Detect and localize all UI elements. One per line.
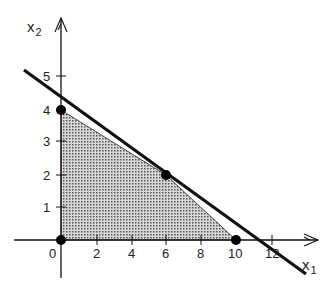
feasible-region — [61, 110, 236, 240]
x-tick-label: 8 — [197, 246, 204, 261]
lp-diagram: 0 2 4 6 8 10 12 x1 1 2 3 4 5 x2 — [0, 0, 331, 289]
y-tick-label: 1 — [43, 200, 50, 215]
x-tick-label: 6 — [162, 246, 169, 261]
x-tick-label: 2 — [93, 246, 100, 261]
vertex-point-origin — [56, 235, 66, 245]
origin-label: 0 — [49, 246, 56, 261]
x-tick-label: 10 — [228, 246, 242, 261]
y-tick-label: 3 — [43, 134, 50, 149]
y-tick-label: 4 — [43, 103, 50, 118]
y-tick-label: 2 — [43, 168, 50, 183]
vertex-point-6-2 — [161, 170, 171, 180]
x-tick-label: 4 — [128, 246, 135, 261]
vertex-point-10-0 — [231, 235, 241, 245]
y-axis-label: x2 — [27, 18, 42, 38]
vertex-point-0-4 — [56, 105, 66, 115]
y-tick-label: 5 — [43, 69, 50, 84]
